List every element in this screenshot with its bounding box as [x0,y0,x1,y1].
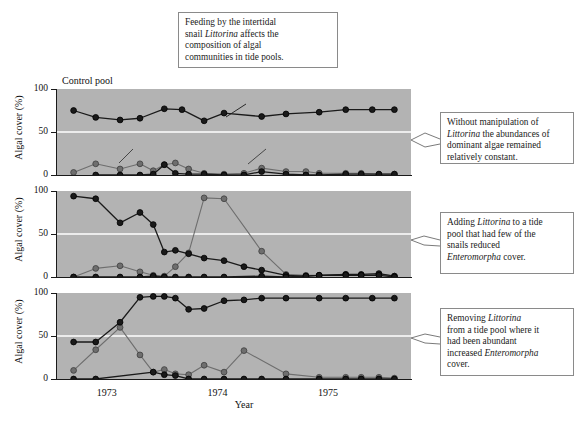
plot-panel-control [57,89,411,175]
data-point [303,172,309,175]
y-axis-title-panel-3: Algal cover (%) [13,289,24,375]
data-point [201,255,207,261]
data-point [150,171,156,175]
x-label-1975: 1975 [308,387,348,398]
series-line-0 [74,327,395,378]
x-label-1973: 1973 [87,387,127,398]
data-point [343,107,349,113]
data-point [221,172,227,175]
plot-panel-littorina-removed [57,293,411,379]
data-point [71,376,77,379]
data-point [186,306,192,312]
note1-line-2: Littorina the abundances of [447,129,568,141]
data-point [316,376,322,379]
data-point [150,369,156,375]
data-point [71,170,77,175]
data-point [71,108,77,114]
annotation-box-added: Adding Littorina to a tide pool that had… [440,212,574,274]
data-point [71,339,77,345]
data-point [316,272,322,277]
data-point [150,294,156,300]
figure-root: Feeding by the intertidal snail Littorin… [0,0,581,423]
data-point [343,171,349,175]
note3-line-2: from a tide pool where it [447,325,568,337]
data-point [283,295,289,301]
data-point [172,247,178,253]
data-point [201,195,207,201]
data-point [172,160,178,166]
data-point [392,376,398,379]
data-point [117,274,123,277]
y-tick-100-panel-3 [51,293,56,294]
data-point [259,273,265,277]
data-point [376,376,382,379]
note2-line-2: pool that had few of the [447,229,568,241]
x-axis-line-panel-1 [56,175,412,176]
data-point [283,171,289,175]
caption-line-1: Feeding by the intertidal [185,17,332,29]
data-point [172,373,178,379]
y-axis-title-panel-1: Algal cover (%) [13,85,24,171]
y-label-0-panel-3: 0 [24,373,48,383]
data-point [221,376,227,379]
data-point [221,369,227,375]
data-point [316,109,322,115]
data-point [137,172,143,175]
y-label-100-panel-1: 100 [24,83,48,93]
data-point [283,274,289,277]
data-point [201,274,207,277]
data-point [221,258,227,264]
data-point [392,171,398,175]
data-point [71,193,77,199]
data-point [259,169,265,175]
data-point [186,274,192,277]
data-point [161,274,167,277]
data-point [172,264,178,270]
plot-svg-panel-3 [57,293,411,379]
y-label-50-panel-3: 50 [24,330,48,340]
data-point [392,295,398,301]
data-point [358,171,364,175]
data-point [179,107,185,113]
data-point [186,376,192,379]
y-tick-50-panel-3 [51,336,56,337]
data-point [201,171,207,175]
data-point [259,267,265,273]
data-point [161,106,167,112]
data-point [316,295,322,301]
data-point [303,273,309,277]
data-point [137,294,143,300]
data-point [93,161,99,167]
y-label-50-panel-2: 50 [24,228,48,238]
plot-panel-littorina-added [57,191,411,277]
note3-line-4: increased Enteromorpha [447,348,568,360]
y-tick-50-panel-1 [51,132,56,133]
data-point [117,263,123,269]
y-label-100-panel-3: 100 [24,287,48,297]
series-line-1 [74,296,395,342]
data-point [93,196,99,202]
data-point [137,352,143,358]
data-point [172,295,178,301]
y-label-50-panel-1: 50 [24,126,48,136]
data-point [150,222,156,228]
plot-svg-panel-2 [57,191,411,277]
data-point [93,376,99,379]
caption-line-4: communities in tide pools. [185,52,332,64]
y-axis-title-panel-2: Algal cover (%) [13,187,24,273]
x-label-1974: 1974 [197,387,237,398]
data-point [221,110,227,116]
data-point [161,372,167,378]
data-point [221,196,227,202]
data-point [172,170,178,175]
data-point [376,272,382,277]
data-point [316,172,322,175]
data-point [392,274,398,277]
caption-line-2: snail Littorina affects the [185,29,332,41]
data-point [201,306,207,312]
data-point [93,266,99,272]
data-point [343,295,349,301]
y-label-0-panel-1: 0 [24,169,48,179]
x-axis-line-panel-3 [56,379,412,380]
data-point [259,376,265,379]
